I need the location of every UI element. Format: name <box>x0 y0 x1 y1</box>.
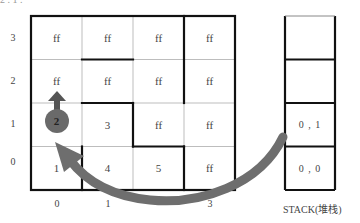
cell-1-2: ff <box>82 60 133 104</box>
stack-slot-3 <box>285 16 335 60</box>
cell-0-2: ff <box>31 60 82 104</box>
y-label-2: 2 <box>11 75 16 86</box>
cell-2-2: ff <box>133 60 184 104</box>
stack-slot-2 <box>285 60 335 104</box>
cell-3-1: ff <box>184 103 235 147</box>
stack-slot-1: 0 , 1 <box>285 103 335 147</box>
cell-1-0: 4 <box>82 147 133 191</box>
stack-slot-0: 0 , 0 <box>285 147 335 191</box>
x-label-1: 1 <box>106 198 111 209</box>
cell-3-0: ff <box>184 147 235 191</box>
y-label-0: 0 <box>11 156 16 167</box>
y-label-1: 1 <box>11 118 16 129</box>
cell-0-1-current: 2 <box>31 99 82 143</box>
cell-1-3: ff <box>82 16 133 60</box>
cell-2-0: 5 <box>133 147 184 191</box>
x-label-0: 0 <box>55 198 60 209</box>
cell-1-1: 3 <box>82 103 133 147</box>
x-label-3: 3 <box>208 198 213 209</box>
cell-0-0: 1 <box>31 147 82 191</box>
cell-2-1: ff <box>133 103 184 147</box>
cell-3-2: ff <box>184 60 235 104</box>
cell-2-3: ff <box>133 16 184 60</box>
y-label-3: 3 <box>11 32 16 43</box>
cell-0-3: ff <box>31 16 82 60</box>
cell-3-3: ff <box>184 16 235 60</box>
stack-label: STACK(堆栈) <box>283 201 342 216</box>
